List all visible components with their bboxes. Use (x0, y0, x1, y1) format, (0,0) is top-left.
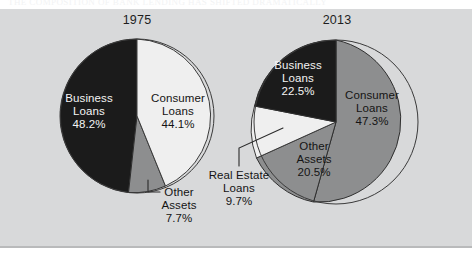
label-2013-other-assets: Other Assets 20.5% (285, 140, 343, 179)
label-1975-business-loans: Business Loans 48.2% (55, 92, 123, 131)
label-text-line1: Real Estate (200, 169, 278, 182)
label-text-line2: Assets (285, 153, 343, 166)
label-text-line1: Other (285, 140, 343, 153)
label-text-line2: Loans (55, 105, 123, 118)
chart-title-1975: 1975 (97, 13, 177, 27)
label-text-line2: Loans (200, 182, 278, 195)
label-value: 9.7% (200, 195, 278, 208)
label-value: 48.2% (55, 118, 123, 131)
label-value: 22.5% (265, 85, 331, 98)
label-text-line1: Business (55, 92, 123, 105)
label-value: 7.7% (148, 212, 210, 225)
label-value: 20.5% (285, 166, 343, 179)
label-text-line1: Consumer (140, 92, 216, 105)
label-text-line2: Loans (336, 102, 408, 115)
chart-title-2013: 2013 (297, 13, 377, 27)
label-text-line2: Loans (265, 72, 331, 85)
label-text-line1: Business (265, 59, 331, 72)
label-text-line1: Consumer (336, 89, 408, 102)
label-2013-consumer-loans: Consumer Loans 47.3% (336, 89, 408, 128)
label-1975-consumer-loans: Consumer Loans 44.1% (140, 92, 216, 131)
label-value: 44.1% (140, 118, 216, 131)
figure-container: THE COMPOSITION OF BANK LENDING HAS SHIF… (0, 0, 472, 254)
label-value: 47.3% (336, 115, 408, 128)
label-2013-business-loans: Business Loans 22.5% (265, 59, 331, 98)
label-text-line2: Loans (140, 105, 216, 118)
label-2013-real-estate-loans: Real Estate Loans 9.7% (200, 169, 278, 208)
